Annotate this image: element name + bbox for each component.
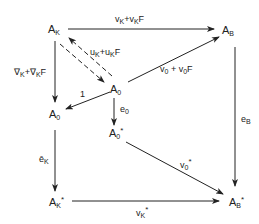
node-A-B: AB xyxy=(222,25,234,37)
node-A-K: AK xyxy=(48,24,60,36)
label-v0: v0 + v0F xyxy=(160,65,193,75)
node-A-K-star: AK* xyxy=(49,196,64,209)
node-A-0-star: A0* xyxy=(109,127,123,140)
node-A-B-star: AB* xyxy=(229,196,244,209)
label-eB: eB xyxy=(241,115,251,125)
label-e0: e0 xyxy=(120,105,129,115)
label-nabla: ∇K+∇KF xyxy=(14,68,46,78)
label-ebarK: ēK xyxy=(39,155,49,165)
label-top: vK+vKF xyxy=(115,15,144,25)
label-one: 1 xyxy=(80,90,85,99)
node-A-0-left: A0 xyxy=(49,109,60,121)
node-A-0-center: A0 xyxy=(110,84,121,96)
arrow-one xyxy=(66,92,110,109)
arrows-layer xyxy=(0,0,259,224)
label-vK-star: vK* xyxy=(136,206,148,219)
arrow-diag-up xyxy=(128,37,219,82)
label-v0-star: v0* xyxy=(180,158,192,171)
label-uK: uK+uKF xyxy=(90,48,120,58)
arrow-v0s xyxy=(126,142,223,194)
